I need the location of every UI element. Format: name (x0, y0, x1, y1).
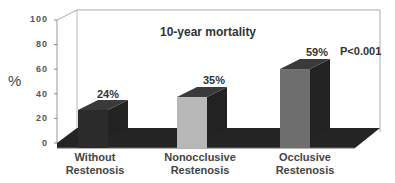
y-tick-60: 60 (20, 64, 48, 74)
y-axis-label: % (8, 72, 21, 89)
p-value-annotation: P<0.001 (340, 45, 381, 57)
y-tick-0: 0 (20, 138, 48, 148)
category-line-2: Restenosis (150, 164, 250, 177)
y-tick-80: 80 (20, 39, 48, 49)
category-line-1: Nonocclusive (150, 151, 250, 164)
category-line-1: Occlusive (255, 151, 355, 164)
category-label-occlusive: Occlusive Restenosis (255, 151, 355, 177)
category-label-nonocclusive: Nonocclusive Restenosis (150, 151, 250, 177)
chart-title: 10-year mortality (160, 25, 256, 39)
value-label-without: 24% (97, 88, 119, 100)
y-tick-100: 100 (20, 14, 48, 24)
category-line-2: Restenosis (255, 164, 355, 177)
category-line-2: Restenosis (45, 164, 145, 177)
category-label-without: Without Restenosis (45, 151, 145, 177)
mortality-bar-chart: % 100 80 60 40 20 0 10-year mortality 24… (0, 0, 395, 183)
category-line-1: Without (45, 151, 145, 164)
y-tick-20: 20 (20, 113, 48, 123)
value-label-nonocclusive: 35% (203, 74, 225, 86)
y-tick-40: 40 (20, 89, 48, 99)
value-label-occlusive: 59% (306, 46, 328, 58)
